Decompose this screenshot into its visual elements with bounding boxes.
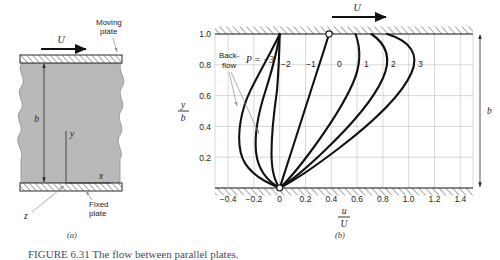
curve-label-P-minus-1: −1 bbox=[306, 59, 316, 69]
curve-label-P-minus-2: −2 bbox=[281, 59, 291, 69]
curve-label-P-0: 0 bbox=[337, 59, 342, 69]
curve-P-0 bbox=[280, 34, 329, 188]
xtick-9: 1.4 bbox=[454, 194, 466, 204]
panel-a-caption: (a) bbox=[67, 230, 77, 240]
panel-a-velocity-label: U bbox=[57, 34, 65, 45]
figure-parallel-plate-flow: U Moving plate Fixed plate b y x z (a) bbox=[0, 0, 500, 260]
moving-plate-label-line1: Moving bbox=[96, 18, 122, 27]
xtick-1: −0.2 bbox=[246, 194, 263, 204]
backflow-label-line1: Back- bbox=[219, 51, 240, 60]
panel-b-gap-label: b bbox=[487, 106, 492, 116]
moving-plate bbox=[20, 55, 122, 63]
ytick-0: 0.2 bbox=[199, 153, 211, 163]
fixed-plate-label-line2: plate bbox=[89, 209, 107, 218]
curve-label-P-minus-3: P = −3 bbox=[245, 55, 274, 65]
curve-label-P-3: 3 bbox=[418, 59, 423, 69]
xtick-2: 0 bbox=[277, 194, 282, 204]
xtick-8: 1.2 bbox=[429, 194, 441, 204]
y-axis-numerator: y bbox=[180, 100, 186, 110]
ytick-2: 0.6 bbox=[199, 91, 211, 101]
axis-z-label: z bbox=[23, 211, 28, 221]
xtick-6: 0.8 bbox=[377, 194, 389, 204]
figure-canvas: U Moving plate Fixed plate b y x z (a) bbox=[0, 0, 500, 260]
axis-x-label: x bbox=[98, 171, 104, 181]
y-axis-ticks: 0.2 0.4 0.6 0.8 1.0 bbox=[199, 29, 211, 162]
moving-wall-top bbox=[215, 27, 473, 35]
fixed-plate-label-line1: Fixed bbox=[89, 200, 109, 209]
figure-caption: FIGURE 6.31 The flow between parallel pl… bbox=[28, 248, 239, 260]
axis-y-label: y bbox=[69, 129, 75, 139]
fixed-plate-leader bbox=[86, 191, 92, 200]
bottom-node bbox=[277, 185, 283, 191]
xtick-5: 0.6 bbox=[351, 194, 363, 204]
panel-b-caption: (b) bbox=[335, 230, 345, 240]
ytick-3: 0.8 bbox=[199, 60, 211, 70]
fixed-plate bbox=[20, 183, 122, 191]
x-axis-numerator: u bbox=[342, 206, 347, 216]
moving-plate-label-line2: plate bbox=[100, 27, 118, 36]
curve-P-1 bbox=[280, 34, 359, 188]
xtick-0: −0.4 bbox=[220, 194, 237, 204]
backflow-label-line2: flow bbox=[222, 61, 236, 70]
y-axis-label: y b bbox=[178, 100, 189, 123]
y-axis-denominator: b bbox=[181, 113, 186, 123]
moving-plate-leader bbox=[113, 38, 117, 52]
xtick-4: 0.4 bbox=[325, 194, 337, 204]
panel-b-chart: U b P = −3 −2 −1 0 1 bbox=[178, 2, 492, 240]
xtick-3: 0.2 bbox=[300, 194, 312, 204]
panel-b-velocity-label: U bbox=[353, 2, 361, 13]
curve-label-P-1: 1 bbox=[364, 59, 369, 69]
ytick-4: 1.0 bbox=[199, 29, 211, 39]
x-axis-label: u U bbox=[338, 206, 350, 229]
top-node bbox=[326, 31, 332, 37]
panel-a-diagram: U Moving plate Fixed plate b y x z (a) bbox=[18, 18, 124, 240]
x-axis-denominator: U bbox=[341, 219, 349, 229]
curve-P-2 bbox=[280, 34, 387, 188]
gap-dimension-label: b bbox=[34, 114, 39, 124]
curve-label-P-2: 2 bbox=[391, 59, 396, 69]
ytick-1: 0.4 bbox=[199, 122, 211, 132]
xtick-7: 1.0 bbox=[403, 194, 415, 204]
